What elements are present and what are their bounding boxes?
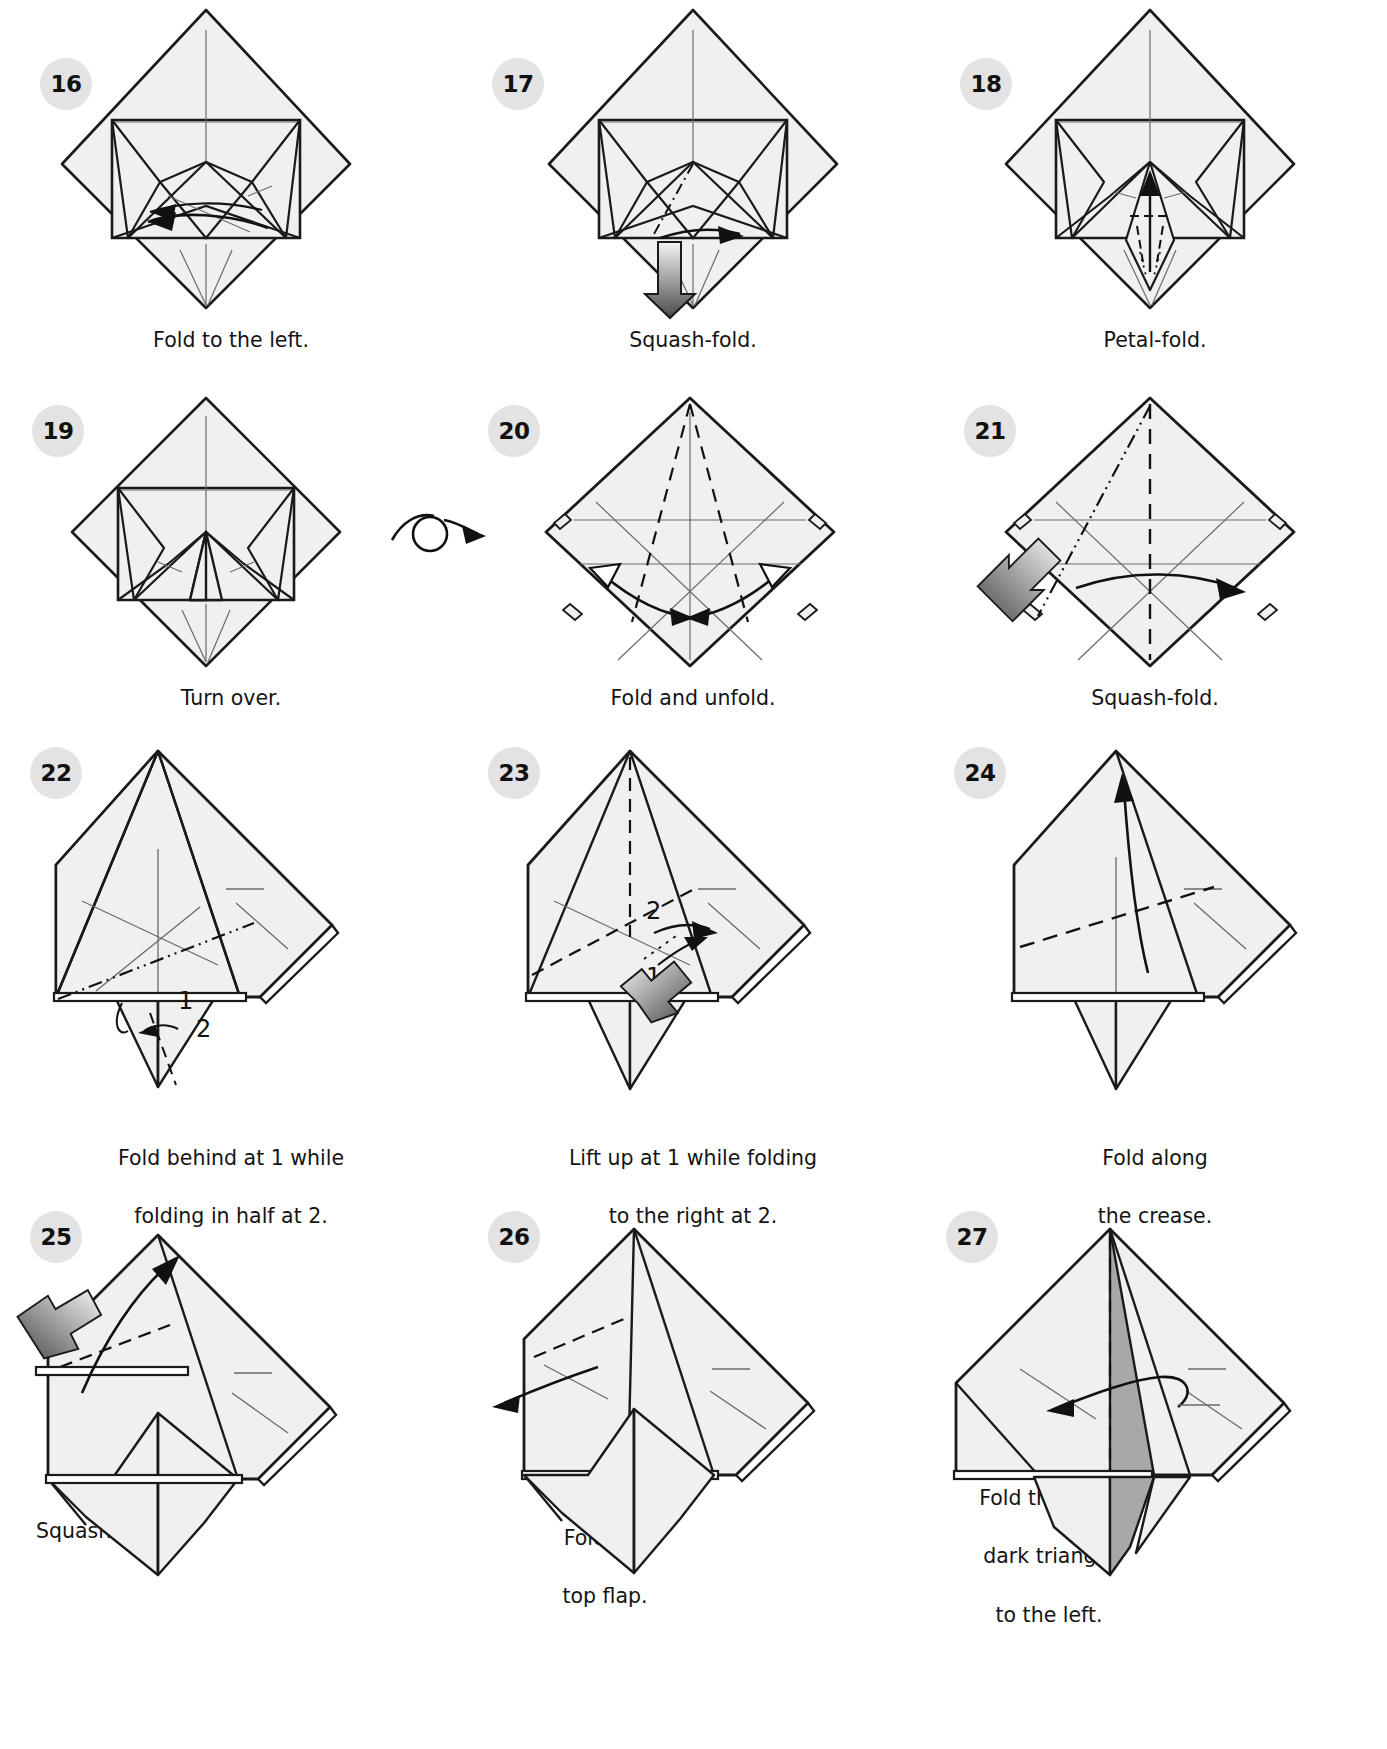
step-caption: Squash-fold.: [1091, 684, 1219, 713]
step-number-badge: 18: [960, 58, 1012, 110]
turn-over-icon: [378, 500, 498, 574]
step-row-2: 19: [0, 392, 1387, 737]
step-number-badge: 19: [32, 405, 84, 457]
step-cell-21: 21: [924, 392, 1386, 737]
step-caption: Turn over.: [181, 684, 281, 713]
step-cell-24: 24: [924, 737, 1386, 1207]
step-cell-19: 19: [0, 392, 462, 737]
caption-line-1: Lift up at 1 while folding: [569, 1146, 817, 1170]
annotation-2: 2: [196, 1015, 211, 1043]
figure-step-16: [0, 0, 462, 320]
step-caption: Petal-fold.: [1104, 326, 1207, 355]
step-cell-18: 18: [924, 0, 1386, 392]
figure-step-26: [462, 1207, 924, 1587]
step-number-badge: 24: [954, 747, 1006, 799]
step-cell-23: 23: [462, 737, 924, 1207]
push-arrow-icon: [978, 538, 1061, 621]
step-cell-26: 26: [462, 1207, 924, 1707]
step-number-badge: 22: [30, 747, 82, 799]
caption-line-1: Fold along: [1102, 1146, 1208, 1170]
step-cell-20: 20: [462, 392, 924, 737]
annotation-1: 1: [178, 987, 193, 1015]
figure-step-27: [924, 1207, 1386, 1587]
step-caption: Fold and unfold.: [611, 684, 776, 713]
caption-line-2: top flap.: [562, 1584, 647, 1608]
figure-step-18: [924, 0, 1386, 320]
caption-line-1: Fold behind at 1 while: [118, 1146, 344, 1170]
step-cell-17: 17: [462, 0, 924, 392]
figure-step-17: [462, 0, 924, 320]
step-cell-22: 22: [0, 737, 462, 1207]
step-number-badge: 25: [30, 1211, 82, 1263]
step-number-badge: 20: [488, 405, 540, 457]
step-number-badge: 16: [40, 58, 92, 110]
step-row-1: 16: [0, 0, 1387, 392]
step-caption: Fold to the left.: [153, 326, 309, 355]
step-number-badge: 21: [964, 405, 1016, 457]
figure-step-23: 2 1: [462, 737, 924, 1107]
figure-step-25: [0, 1207, 462, 1587]
step-number-badge: 17: [492, 58, 544, 110]
step-number-badge: 23: [488, 747, 540, 799]
caption-line-3: to the left.: [996, 1603, 1103, 1627]
step-number-badge: 27: [946, 1211, 998, 1263]
instruction-sheet: 16: [0, 0, 1387, 1749]
step-cell-25: 25: [0, 1207, 462, 1707]
step-row-4: 25: [0, 1207, 1387, 1707]
step-number-badge: 26: [488, 1211, 540, 1263]
step-caption: Squash-fold.: [629, 326, 757, 355]
step-row-3: 22: [0, 737, 1387, 1207]
step-cell-16: 16: [0, 0, 462, 392]
step-cell-27: 27: [924, 1207, 1386, 1707]
annotation-2: 2: [646, 897, 661, 925]
